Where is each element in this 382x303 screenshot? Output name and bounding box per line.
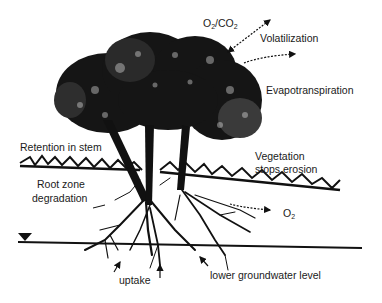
vegetation-label-line2: stops erosion	[255, 163, 317, 175]
evapotranspiration-label: Evapotranspiration	[266, 84, 354, 96]
o2-main: O	[283, 207, 291, 219]
phytoremediation-diagram: O2/CO2 Volatilization Evapotranspiration…	[0, 0, 382, 303]
tree-canopy	[54, 32, 262, 140]
o2-sub: 2	[291, 213, 295, 220]
uptake-label: uptake	[119, 274, 151, 286]
root-system	[85, 178, 255, 270]
groundwater-label: lower groundwater level	[210, 269, 321, 281]
o2-co2-main2: /CO	[215, 17, 234, 29]
o2-label: O2	[283, 207, 295, 223]
root-zone-label-line2: degradation	[32, 192, 87, 204]
volatilization-label: Volatilization	[260, 32, 318, 44]
root-zone-label-line1: Root zone	[37, 178, 85, 190]
retention-label: Retention in stem	[20, 141, 102, 153]
vegetation-label-line1: Vegetation	[255, 150, 305, 162]
o2-co2-sub2: 2	[234, 23, 238, 30]
water-table-marker	[18, 233, 32, 241]
groundwater-line	[18, 242, 362, 248]
o2-co2-label: O2/CO2	[203, 17, 238, 33]
o2-co2-main1: O	[203, 17, 211, 29]
